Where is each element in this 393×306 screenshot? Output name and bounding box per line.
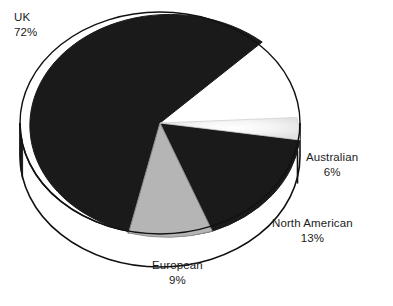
slice-label-north-american-name: North American bbox=[272, 216, 353, 231]
slice-label-north-american-value: 13% bbox=[272, 231, 353, 246]
slice-label-australian: Australian 6% bbox=[306, 150, 358, 180]
slice-label-uk-value: 72% bbox=[14, 25, 37, 40]
slice-label-uk: UK 72% bbox=[14, 10, 37, 40]
slice-label-european-name: European bbox=[152, 258, 203, 273]
slice-label-european-value: 9% bbox=[152, 273, 203, 288]
slice-label-australian-name: Australian bbox=[306, 150, 358, 165]
slice-label-australian-value: 6% bbox=[306, 165, 358, 180]
slice-label-european: European 9% bbox=[152, 258, 203, 288]
pie-chart: UK 72% Australian 6% North American 13% … bbox=[0, 0, 393, 306]
slice-label-uk-name: UK bbox=[14, 10, 37, 25]
slice-label-north-american: North American 13% bbox=[272, 216, 353, 246]
